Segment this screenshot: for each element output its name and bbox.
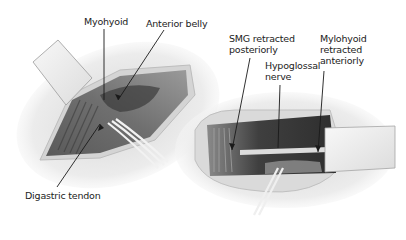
- right-retractor: [325, 126, 395, 172]
- label-myohyoid: Myohyoid: [84, 16, 128, 27]
- fatty-tissue: [265, 160, 322, 174]
- label-digastric-tendon: Digastric tendon: [25, 190, 101, 201]
- label-smg-retracted: SMG retracted posteriorly: [229, 33, 295, 55]
- label-hypoglossal-nerve: Hypoglossal nerve: [265, 60, 320, 82]
- right-panel: [175, 92, 395, 215]
- label-anterior-belly: Anterior belly: [146, 18, 207, 29]
- label-mylohyoid-retracted: Mylohyoid retracted anteriorly: [320, 33, 367, 66]
